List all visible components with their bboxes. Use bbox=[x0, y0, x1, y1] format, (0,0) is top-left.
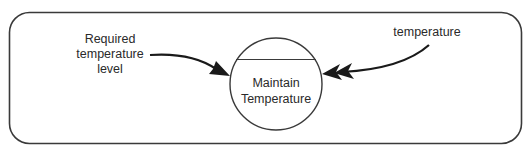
arrow-single-icon bbox=[150, 55, 230, 76]
input-label-line2: temperature bbox=[76, 47, 143, 61]
input-label-line3: level bbox=[97, 62, 123, 76]
diagram-canvas: Maintain Temperature Required temperatur… bbox=[0, 0, 532, 152]
input-label-line1: Required bbox=[85, 32, 136, 46]
process-maintain-temperature: Maintain Temperature bbox=[230, 38, 322, 130]
process-label-line2: Temperature bbox=[241, 92, 311, 106]
input-temperature-label: temperature bbox=[393, 25, 460, 39]
process-label-line1: Maintain bbox=[252, 76, 299, 90]
arrow-double-icon bbox=[322, 45, 429, 80]
input-required-temperature-level: Required temperature level bbox=[76, 32, 143, 76]
